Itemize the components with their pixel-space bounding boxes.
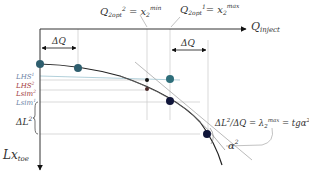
diagram-canvas: Qinject Lxtoe Q2opt2 = x2min Q2opt1= x2m… bbox=[0, 0, 309, 174]
dark-point-1 bbox=[166, 97, 174, 105]
x-axis-label: Qinject bbox=[251, 20, 280, 34]
y-axis-label: Lxtoe bbox=[2, 148, 29, 163]
dark-point-2 bbox=[203, 130, 211, 138]
pointer-qopt1 bbox=[171, 17, 180, 27]
response-curve bbox=[40, 64, 222, 165]
teal-point-2 bbox=[74, 64, 82, 72]
level-label-lsim2: Lsim2 bbox=[15, 89, 36, 98]
level-label-lhs2: LHS2 bbox=[15, 81, 35, 90]
small-brown-point bbox=[145, 87, 149, 91]
delta-l2-label: ΔL2 bbox=[15, 115, 32, 127]
slope-formula: ΔL2/ΔQ = λ2max = tgα2 bbox=[214, 117, 309, 129]
level-label-lhs1: LHS1 bbox=[15, 72, 34, 81]
level-label-lsim1: Lsim1 bbox=[15, 98, 36, 107]
alpha-label: α2 bbox=[228, 138, 239, 151]
delta-q-right-label: ΔQ bbox=[180, 38, 195, 48]
teal-point-3 bbox=[166, 75, 174, 83]
qopt1-label: Q2opt1= x2max bbox=[180, 2, 240, 17]
small-black-point bbox=[145, 78, 149, 82]
teal-point-1 bbox=[36, 60, 44, 68]
tangent-line-upper bbox=[40, 76, 180, 80]
secondary-curve bbox=[120, 76, 225, 150]
qopt2-label: Q2opt2 = x2min bbox=[100, 4, 162, 19]
delta-q-left-label: ΔQ bbox=[51, 36, 66, 46]
delta-l2-brace bbox=[33, 102, 38, 134]
